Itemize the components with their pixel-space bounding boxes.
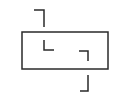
- bottom-right-outer-bracket: [80, 75, 88, 91]
- diagram-canvas: [0, 0, 121, 100]
- inner-left-corner: [44, 40, 54, 50]
- main-rectangle: [22, 32, 108, 69]
- top-left-outer-bracket: [34, 10, 44, 27]
- inner-right-corner: [79, 51, 88, 61]
